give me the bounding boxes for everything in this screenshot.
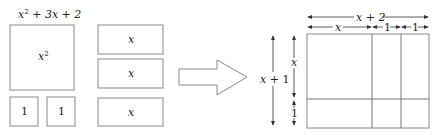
svg-text:1: 1 bbox=[412, 21, 419, 34]
x-tile: x bbox=[98, 98, 163, 126]
svg-text:x: x bbox=[291, 56, 298, 69]
height-parts-dimension: x 1 bbox=[291, 36, 298, 125]
svg-text:x: x bbox=[128, 33, 135, 46]
result-rectangle bbox=[307, 34, 429, 128]
svg-text:1: 1 bbox=[384, 21, 391, 34]
svg-text:1: 1 bbox=[291, 107, 298, 120]
svg-text:x: x bbox=[335, 21, 342, 34]
svg-text:1: 1 bbox=[58, 105, 65, 118]
algebra-tiles-diagram: x2 + 3x + 2 x2 1 1 x x x x + 2 bbox=[0, 0, 435, 135]
x-tile: x bbox=[98, 25, 163, 54]
unit-tile: 1 bbox=[47, 97, 75, 126]
right-arrow-icon bbox=[179, 60, 247, 95]
height-dimension: x + 1 bbox=[260, 36, 289, 125]
svg-text:x + 1: x + 1 bbox=[260, 73, 289, 86]
svg-text:x: x bbox=[128, 106, 135, 119]
svg-text:x: x bbox=[128, 67, 135, 80]
x-squared-tile: x2 bbox=[10, 25, 74, 90]
expression-label: x2 + 3x + 2 bbox=[18, 8, 81, 21]
unit-tile: 1 bbox=[10, 97, 38, 126]
width-dimension: x + 2 bbox=[308, 11, 428, 24]
svg-text:x + 2: x + 2 bbox=[356, 11, 385, 24]
x-tile: x bbox=[98, 59, 163, 88]
svg-text:1: 1 bbox=[21, 105, 28, 118]
